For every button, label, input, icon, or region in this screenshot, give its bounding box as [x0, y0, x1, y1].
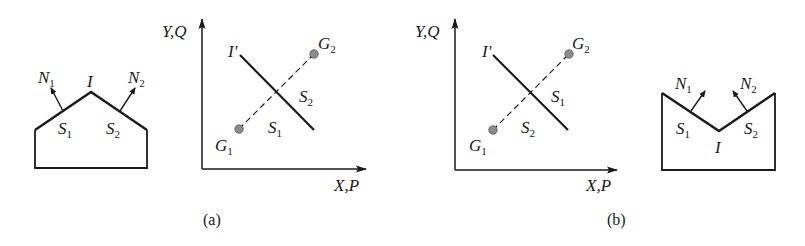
plot-b: Y,Q X,P I' G1 G2 S1 S2 — [415, 19, 617, 195]
label-n1: N1 — [674, 74, 692, 95]
caption-b: (b) — [607, 211, 626, 229]
y-axis-label: Y,Q — [415, 22, 439, 41]
label-i-prime: I' — [227, 42, 238, 61]
point-g1 — [235, 125, 243, 133]
concave-shape: N1 N2 I S1 S2 — [662, 74, 775, 170]
label-region-upper: S2 — [299, 87, 313, 108]
label-i-prime: I' — [481, 42, 492, 61]
label-region-lower: S2 — [521, 118, 535, 139]
label-g1: G1 — [469, 136, 487, 157]
point-g1 — [489, 126, 497, 134]
figure-canvas: N1 N2 I S1 S2 Y,Q X,P I' G1 G2 S2 S1 (a)… — [0, 0, 805, 246]
label-region-lower: S1 — [268, 118, 282, 139]
label-n2: N2 — [739, 74, 757, 95]
convex-shape: N1 N2 I S1 S2 — [35, 68, 147, 168]
label-n2: N2 — [127, 68, 145, 89]
normal-arrow-n2 — [733, 91, 747, 111]
x-axis-label: X,P — [585, 176, 611, 195]
label-g2: G2 — [318, 34, 336, 55]
label-vertex-i: I — [86, 72, 94, 91]
label-n1: N1 — [37, 68, 55, 89]
x-axis-label: X,P — [333, 176, 359, 195]
label-vertex-i: I — [714, 138, 722, 157]
plot-a: Y,Q X,P I' G1 G2 S2 S1 — [162, 19, 366, 195]
label-g1: G1 — [215, 136, 233, 157]
label-s2: S2 — [744, 119, 758, 140]
y-axis-label: Y,Q — [162, 22, 186, 41]
normal-arrow-n1 — [51, 88, 63, 111]
label-s2: S2 — [106, 119, 120, 140]
normal-arrow-n2 — [120, 88, 135, 111]
label-region-upper: S1 — [551, 87, 565, 108]
caption-a: (a) — [203, 211, 221, 229]
label-s1: S1 — [58, 119, 72, 140]
point-g2 — [310, 50, 318, 58]
label-s1: S1 — [676, 119, 690, 140]
label-g2: G2 — [572, 34, 590, 55]
normal-arrow-n1 — [691, 91, 705, 111]
